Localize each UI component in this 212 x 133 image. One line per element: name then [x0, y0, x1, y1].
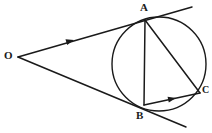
- vertex-label-c: C: [202, 85, 209, 95]
- vertex-label-o: O: [4, 50, 13, 61]
- chord-ab: [144, 20, 145, 105]
- circle-shape: [112, 17, 206, 111]
- geometry-diagram: O A B C: [0, 0, 212, 133]
- geometry-canvas: [0, 0, 212, 133]
- vertex-label-a: A: [140, 2, 148, 13]
- tangent-line-upper-oa: [18, 7, 192, 57]
- tangent-line-lower-ob: [18, 57, 186, 127]
- vertex-label-b: B: [136, 110, 143, 121]
